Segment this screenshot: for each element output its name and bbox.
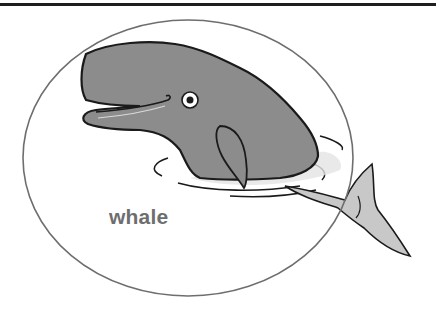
whale-drawing <box>0 0 436 309</box>
whale-body <box>82 42 319 179</box>
whale-illustration: whale <box>0 0 436 309</box>
whale-label: whale <box>109 205 168 229</box>
